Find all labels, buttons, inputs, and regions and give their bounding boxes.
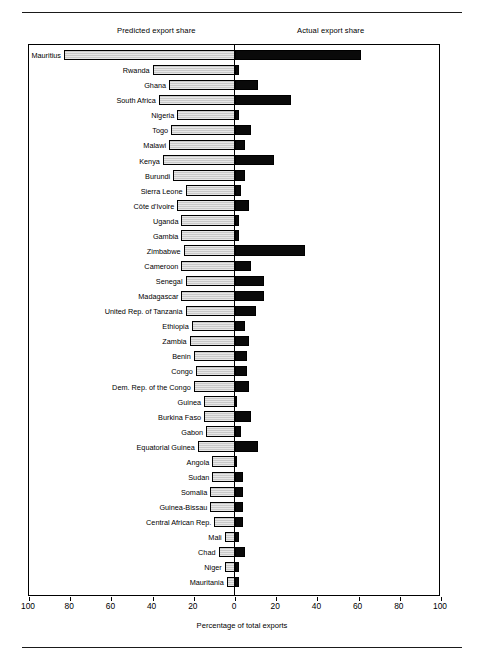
actual-bar — [235, 517, 243, 527]
predicted-bar — [169, 80, 235, 90]
country-label: South Africa — [29, 98, 156, 105]
predicted-bar — [177, 110, 235, 120]
predicted-bar — [210, 502, 235, 512]
axis-tick-label: 60 — [353, 601, 362, 611]
country-label: Niger — [29, 565, 222, 572]
chart-plot-area: MauritiusRwandaGhanaSouth AfricaNigeriaT… — [28, 44, 440, 596]
country-label: Dem. Rep. of the Congo — [29, 384, 191, 391]
x-axis-label: Percentage of total exports — [0, 621, 484, 630]
country-label: Togo — [29, 128, 168, 135]
center-axis-line — [234, 45, 235, 595]
predicted-bar — [194, 351, 235, 361]
country-label: Senegal — [29, 278, 183, 285]
axis-tick-label: 20 — [271, 601, 280, 611]
actual-bar — [235, 155, 274, 165]
axis-tick-label: 20 — [188, 601, 197, 611]
country-label: Sierra Leone — [29, 188, 183, 195]
actual-bar — [235, 577, 239, 587]
actual-bar — [235, 291, 264, 301]
actual-bar — [235, 276, 264, 286]
actual-bar — [235, 80, 258, 90]
country-label: Burkina Faso — [29, 414, 201, 421]
predicted-bar — [173, 170, 235, 180]
predicted-bar — [192, 321, 235, 331]
predicted-bar — [153, 65, 235, 75]
country-label: Cameroon — [29, 263, 178, 270]
predicted-bar — [181, 215, 235, 225]
actual-bar — [235, 95, 291, 105]
predicted-bar — [163, 155, 235, 165]
actual-bar — [235, 502, 243, 512]
actual-bar — [235, 411, 251, 421]
predicted-bar — [219, 547, 235, 557]
actual-bar — [235, 110, 239, 120]
predicted-bar — [206, 426, 235, 436]
country-label: Zimbabwe — [29, 248, 181, 255]
bottom-divider-rule — [22, 647, 462, 648]
axis-tick-label: 40 — [312, 601, 321, 611]
predicted-bar — [184, 245, 236, 255]
country-label: Sudan — [29, 474, 209, 481]
predicted-bar — [177, 200, 235, 210]
actual-bar — [235, 50, 361, 60]
top-divider-rule — [22, 12, 462, 13]
actual-bar — [235, 336, 249, 346]
predicted-bar — [194, 381, 235, 391]
predicted-bar — [204, 396, 235, 406]
axis-tick-label: 80 — [65, 601, 74, 611]
actual-column-title: Actual export share — [297, 26, 364, 35]
actual-bar — [235, 472, 243, 482]
country-label: Mauritania — [29, 580, 224, 587]
predicted-bar — [198, 441, 235, 451]
actual-bar — [235, 351, 247, 361]
country-label: Malawi — [29, 143, 166, 150]
actual-bar — [235, 426, 241, 436]
country-label: Rwanda — [29, 67, 150, 74]
country-label: Ethiopia — [29, 324, 189, 331]
country-label: Côte d'Ivoire — [29, 203, 174, 210]
country-label: Madagascar — [29, 293, 178, 300]
axis-tick-label: 60 — [106, 601, 115, 611]
actual-bar — [235, 185, 241, 195]
actual-bar — [235, 170, 245, 180]
actual-bar — [235, 230, 239, 240]
country-label: Ghana — [29, 83, 166, 90]
country-label: Central African Rep. — [29, 520, 211, 527]
actual-bar — [235, 321, 245, 331]
actual-bar — [235, 366, 247, 376]
predicted-bar — [214, 517, 235, 527]
actual-bar — [235, 487, 243, 497]
actual-bar — [235, 245, 305, 255]
axis-tick-label: 40 — [147, 601, 156, 611]
country-label: Nigeria — [29, 113, 174, 120]
actual-bar — [235, 200, 249, 210]
country-label: Gabon — [29, 429, 203, 436]
predicted-bar — [181, 261, 235, 271]
predicted-bar — [210, 487, 235, 497]
country-label: Guinea — [29, 399, 201, 406]
predicted-bar — [204, 411, 235, 421]
actual-bar — [235, 125, 251, 135]
actual-bar — [235, 261, 251, 271]
actual-bar — [235, 456, 237, 466]
actual-bar — [235, 532, 239, 542]
predicted-bar — [196, 366, 235, 376]
predicted-bar — [186, 276, 235, 286]
country-label: Kenya — [29, 158, 160, 165]
predicted-column-title: Predicted export share — [117, 26, 196, 35]
country-label: Benin — [29, 354, 191, 361]
predicted-bar — [212, 456, 235, 466]
predicted-bar — [186, 306, 235, 316]
country-label: Congo — [29, 369, 193, 376]
predicted-bar — [212, 472, 235, 482]
predicted-bar — [181, 230, 235, 240]
country-label: Mauritius — [29, 52, 61, 59]
axis-tick-labels: 10080604020020406080100 — [0, 601, 484, 615]
predicted-bar — [181, 291, 235, 301]
country-label: Guinea-Bissau — [29, 504, 207, 511]
predicted-bar — [171, 125, 235, 135]
predicted-bar — [159, 95, 235, 105]
axis-tick-label: 100 — [433, 601, 447, 611]
actual-bar — [235, 381, 249, 391]
predicted-bar — [169, 140, 235, 150]
